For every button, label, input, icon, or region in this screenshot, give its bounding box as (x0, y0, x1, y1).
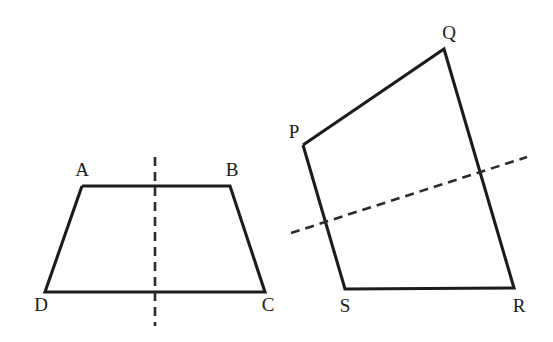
vertex-label-d: D (34, 294, 48, 315)
geometry-diagram: A B C D P Q R S (0, 0, 553, 342)
quadrilateral-pqrs-dashed-line (291, 157, 527, 233)
vertex-label-s: S (340, 295, 351, 316)
vertex-label-q: Q (442, 22, 456, 43)
shape-trapezoid-abcd: A B C D (34, 157, 274, 326)
vertex-label-p: P (289, 121, 300, 142)
vertex-label-a: A (75, 159, 89, 180)
quadrilateral-pqrs-outline (303, 49, 514, 289)
vertex-label-b: B (226, 159, 239, 180)
vertex-label-c: C (262, 294, 275, 315)
shape-quadrilateral-pqrs: P Q R S (289, 22, 527, 316)
figure-canvas: A B C D P Q R S (0, 0, 553, 342)
vertex-label-r: R (513, 295, 526, 316)
